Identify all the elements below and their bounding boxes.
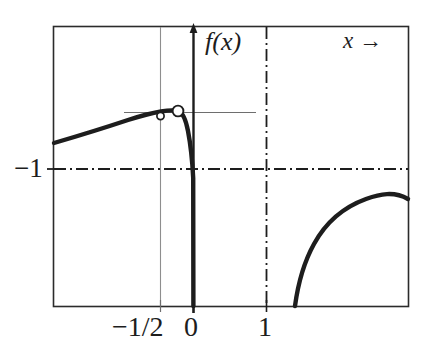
x-axis-label: x → xyxy=(343,29,382,52)
maximum-open-circle-marker xyxy=(173,106,184,117)
y-axis-label: f(x) xyxy=(205,29,241,55)
point-at-minus-half-marker xyxy=(157,112,164,119)
xtick-label-zero: 0 xyxy=(184,313,198,341)
xtick-label-minus-half: −1/2 xyxy=(112,313,164,341)
xtick-label-one: 1 xyxy=(258,313,272,341)
plot-frame xyxy=(54,27,409,307)
ytick-label-minus-one: −1 xyxy=(14,155,43,182)
